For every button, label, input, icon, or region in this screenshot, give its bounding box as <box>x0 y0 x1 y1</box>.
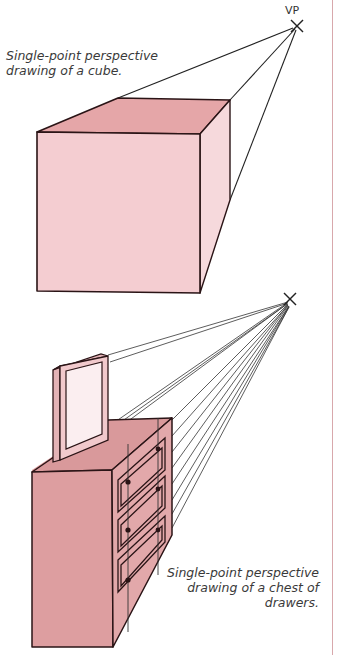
cube-top-face <box>37 98 230 134</box>
knob-icon <box>125 577 130 582</box>
knob-icon <box>156 528 161 533</box>
knob-icon <box>156 447 161 452</box>
mirror-glass <box>66 362 102 449</box>
figure-page: VP Single-point perspective drawing of a… <box>0 0 340 667</box>
knob-icon <box>125 527 130 532</box>
knob-icon <box>156 487 161 492</box>
cube-drawing <box>37 20 303 293</box>
chest-front-face <box>32 470 113 647</box>
knob-icon <box>125 479 130 484</box>
chest-drawing <box>32 293 296 647</box>
perspective-drawings <box>0 0 340 667</box>
cube-side-face <box>200 100 230 293</box>
cube-front-face <box>37 132 200 293</box>
vp-cross-icon <box>291 20 303 32</box>
vp2-cross-icon <box>284 293 296 305</box>
